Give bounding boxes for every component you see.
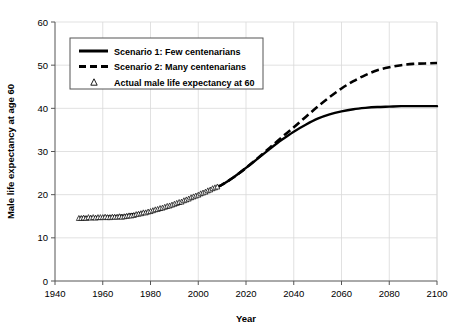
y-axis-tick-label: 20 xyxy=(37,189,48,200)
y-axis-tick-label: 0 xyxy=(43,276,48,287)
x-axis-tick-label: 1940 xyxy=(44,288,65,299)
x-axis-tick-label: 2000 xyxy=(188,288,209,299)
x-axis-tick-label: 2060 xyxy=(331,288,352,299)
x-axis-tick-label: 2080 xyxy=(379,288,400,299)
x-axis-tick-label: 2020 xyxy=(235,288,256,299)
y-axis-tick-label: 10 xyxy=(37,232,48,243)
chart-figure: 0102030405060194019601980200020202040206… xyxy=(0,0,454,331)
legend-label-3: Actual male life expectancy at 60 xyxy=(114,78,255,88)
x-axis-title: Year xyxy=(236,313,256,324)
life-expectancy-line-chart: 0102030405060194019601980200020202040206… xyxy=(0,0,454,331)
series-line-scenario-1 xyxy=(79,106,437,218)
x-axis-tick-label: 2040 xyxy=(283,288,304,299)
legend-label-2: Scenario 2: Many centenarians xyxy=(114,62,246,72)
y-axis-tick-label: 40 xyxy=(37,103,48,114)
y-axis-tick-label: 60 xyxy=(37,17,48,28)
y-axis-tick-label: 50 xyxy=(37,60,48,71)
legend-label-1: Scenario 1: Few centenarians xyxy=(114,47,241,57)
x-axis-tick-label: 1960 xyxy=(92,288,113,299)
x-axis-tick-label: 1980 xyxy=(140,288,161,299)
y-axis-title: Male life expectancy at age 60 xyxy=(5,84,16,219)
y-axis-tick-label: 30 xyxy=(37,146,48,157)
x-axis-tick-label: 2100 xyxy=(426,288,447,299)
